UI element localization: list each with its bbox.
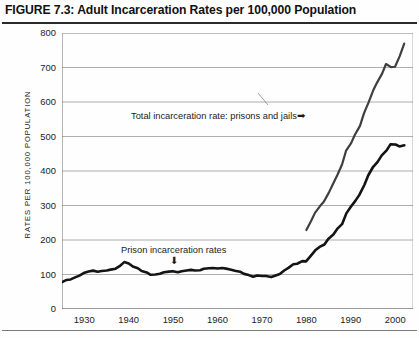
y-axis-tick-label: 100 — [22, 269, 56, 280]
annotation-leader-line — [258, 93, 268, 105]
x-axis-tick-label: 1960 — [198, 314, 238, 325]
chart-plot-area: Total incarceration rate: prisons and ja… — [62, 33, 413, 309]
title-bar: FIGURE 7.3: Adult Incarceration Rates pe… — [0, 0, 419, 24]
annotation-total-rate: Total incarceration rate: prisons and ja… — [131, 110, 305, 121]
page-title: FIGURE 7.3: Adult Incarceration Rates pe… — [5, 3, 356, 17]
x-axis-tick-label: 1980 — [286, 314, 326, 325]
y-axis-tick-label: 500 — [22, 131, 56, 142]
y-axis-tick-label: 700 — [22, 62, 56, 73]
title-divider — [2, 22, 417, 24]
y-axis-tick-label: 0 — [22, 303, 56, 314]
annotation-prison-rate-text: Prison incarceration rates — [121, 245, 226, 255]
arrow-down-icon: ⬇ — [121, 256, 226, 266]
figure-bottom-divider — [2, 330, 417, 331]
arrow-right-icon: ➡ — [297, 110, 305, 121]
y-axis-tick-label: 600 — [22, 96, 56, 107]
x-axis-tick-label: 1970 — [242, 314, 282, 325]
series-line — [62, 144, 404, 282]
y-axis-tick-label: 400 — [22, 165, 56, 176]
line-chart-svg — [62, 33, 413, 309]
x-axis-tick-label: 2000 — [375, 314, 415, 325]
y-axis-tick-label: 300 — [22, 200, 56, 211]
y-axis-tick-label: 200 — [22, 234, 56, 245]
y-axis-tick-label: 800 — [22, 27, 56, 38]
x-axis-tick-label: 1950 — [153, 314, 193, 325]
x-axis-tick-label: 1990 — [331, 314, 371, 325]
x-axis-tick-label: 1930 — [64, 314, 104, 325]
figure-container: FIGURE 7.3: Adult Incarceration Rates pe… — [0, 0, 419, 338]
annotation-prison-rate: Prison incarceration rates⬇ — [121, 245, 226, 266]
x-axis-tick-label: 1940 — [109, 314, 149, 325]
annotation-total-rate-text: Total incarceration rate: prisons and ja… — [131, 111, 297, 121]
